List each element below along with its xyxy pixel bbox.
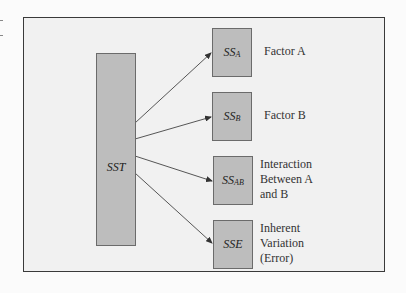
ssb-subscript: B [236,114,241,123]
sst-box: SST [96,53,136,246]
ssb-symbol: SS [224,109,236,124]
ssab-description: Interaction Between A and B [260,157,313,202]
ssa-symbol: SS [224,45,236,60]
ssab-symbol: SS [222,173,234,188]
arrow-to-ssa [135,53,211,123]
sst-label: SST [107,160,126,175]
ssab-subscript: AB [234,178,244,187]
ssa-description: Factor A [264,44,306,59]
arrow-to-sse [135,173,212,243]
ssb-description: Factor B [264,108,306,123]
arrow-to-ssab [135,156,212,181]
ssab-box: SSAB [213,156,253,205]
sse-symbol: SSE [223,237,242,252]
sse-description: Inherent Variation (Error) [260,221,304,266]
ssa-box: SSA [212,28,252,77]
arrow-to-ssb [135,117,211,139]
arrows-layer [0,0,406,293]
sse-box: SSE [213,220,253,269]
ssb-box: SSB [212,92,252,141]
ssa-subscript: A [236,50,241,59]
